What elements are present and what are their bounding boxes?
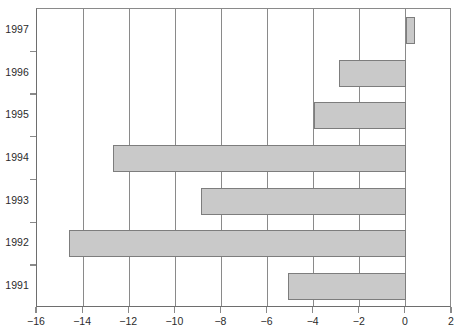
y-axis-tick-5 [30, 222, 36, 223]
x-axis-label-0: 0 [390, 315, 420, 327]
x-axis-tick-neg12 [128, 307, 129, 313]
y-axis-label-1995: 1995 [0, 109, 29, 120]
plot-area [36, 8, 451, 307]
x-axis-tick-neg10 [174, 307, 175, 313]
bar-1997 [406, 17, 415, 44]
x-axis-tick-2 [450, 307, 451, 313]
y-axis-label-1997: 1997 [0, 24, 29, 35]
x-axis-label-neg12: −12 [113, 315, 143, 327]
y-axis-tick-6 [30, 264, 36, 265]
x-axis-tick-neg14 [82, 307, 83, 313]
bar-1992 [69, 230, 406, 257]
x-axis-tick-neg8 [220, 307, 221, 313]
bar-1995 [314, 102, 406, 129]
x-axis-tick-neg16 [35, 307, 36, 313]
y-axis-label-1996: 1996 [0, 67, 29, 78]
x-axis-label-neg8: −8 [205, 315, 235, 327]
y-axis-tick-1 [30, 51, 36, 52]
y-axis-label-1992: 1992 [0, 237, 29, 248]
y-axis-label-1994: 1994 [0, 152, 29, 163]
x-axis-label-neg10: −10 [159, 315, 189, 327]
x-axis-tick-neg4 [312, 307, 313, 313]
x-axis-tick-neg2 [358, 307, 359, 313]
y-axis-tick-2 [30, 93, 36, 94]
x-axis-tick-neg6 [266, 307, 267, 313]
x-axis-label-neg6: −6 [252, 315, 282, 327]
x-axis-label-2: 2 [436, 315, 457, 327]
bar-1994 [113, 145, 406, 172]
bar-1996 [339, 60, 406, 87]
x-axis-label-neg4: −4 [298, 315, 328, 327]
y-axis-tick-3 [30, 136, 36, 137]
bar-chart: 1991199219931994199519961997 −16−14−12−1… [0, 0, 457, 332]
x-axis-label-neg14: −14 [67, 315, 97, 327]
bar-1991 [288, 273, 406, 300]
y-axis-label-1993: 1993 [0, 195, 29, 206]
x-axis-label-neg16: −16 [21, 315, 51, 327]
gridline-neg14 [83, 9, 84, 306]
y-axis-label-1991: 1991 [0, 280, 29, 291]
x-axis-label-neg2: −2 [344, 315, 374, 327]
y-axis-tick-4 [30, 179, 36, 180]
x-axis-tick-0 [404, 307, 405, 313]
bar-1993 [201, 188, 406, 215]
